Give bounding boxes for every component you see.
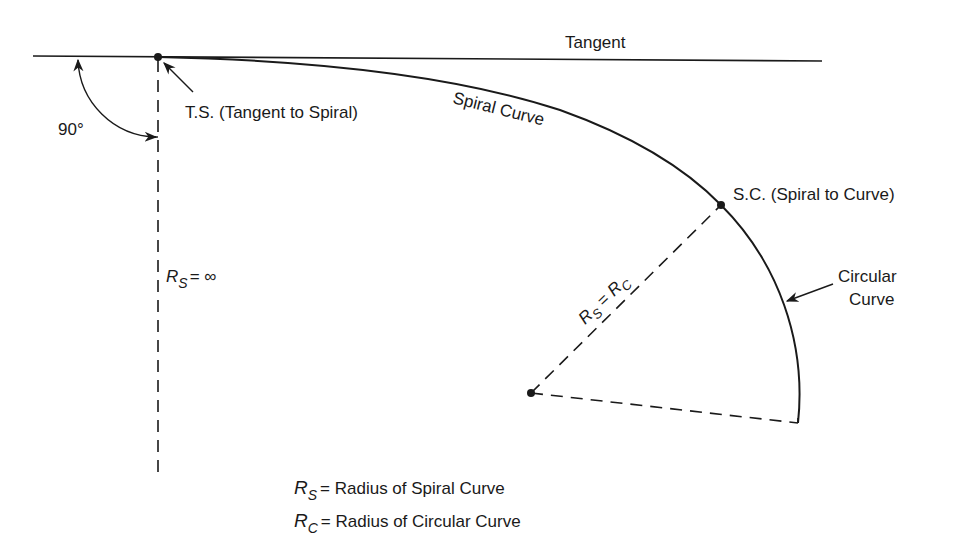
spiral-curve-diagram: Tangent 90° Spiral Curve RS = RC T.S. (T… [0, 0, 960, 550]
ts-pointer-arrow [164, 63, 193, 92]
center-point [527, 389, 535, 397]
angle-label: 90° [58, 120, 84, 139]
rs-equals-rc-label: RS = RC [575, 271, 636, 331]
ts-point [154, 53, 162, 61]
circular-curve-pointer-arrow [787, 284, 833, 301]
circular-curve-label-line2: Curve [849, 290, 894, 309]
circular-curve-label-line1: Circular [838, 267, 897, 286]
legend-rs: RS= Radius of Spiral Curve [294, 477, 505, 503]
end-radius-dashed-line [531, 393, 798, 423]
right-angle-arc [78, 60, 156, 137]
ts-label: T.S. (Tangent to Spiral) [185, 103, 358, 122]
spiral-curve-label: Spiral Curve [451, 88, 546, 129]
sc-label: S.C. (Spiral to Curve) [733, 185, 895, 204]
tangent-line [33, 56, 822, 61]
legend: RS= Radius of Spiral Curve RC= Radius of… [294, 477, 521, 536]
circular-curve [721, 205, 800, 423]
rs-infinity-label: RS= ∞ [166, 267, 216, 291]
sc-point [717, 201, 725, 209]
sc-radius-dashed-line [531, 205, 721, 393]
svg-text:RS = RC: RS = RC [575, 271, 636, 331]
spiral-curve [158, 57, 721, 205]
legend-rc: RC= Radius of Circular Curve [294, 510, 521, 536]
tangent-label: Tangent [565, 33, 626, 52]
